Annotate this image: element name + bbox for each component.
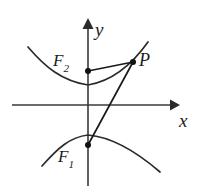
point-p-dot (130, 59, 136, 65)
point-focus1-dot (85, 142, 91, 148)
focus2-label: F2 (53, 52, 69, 73)
y-axis-arrow-icon (83, 18, 94, 29)
x-axis-arrow-icon (170, 100, 180, 111)
y-axis-label-text: y (95, 19, 103, 40)
focus1-label: F1 (58, 148, 74, 169)
segment-focus1-to-p (88, 62, 133, 145)
point-p-label-text: P (139, 50, 150, 70)
y-axis-label: y (95, 20, 103, 39)
focus2-label-text: F (53, 51, 63, 70)
x-axis-label-text: x (179, 110, 187, 131)
focus1-label-text: F (58, 147, 68, 166)
point-focus2-dot (85, 68, 91, 74)
hyperbola-figure: y x F2 F1 P (0, 0, 208, 186)
figure-canvas (0, 0, 208, 186)
focus1-label-subscript: 1 (68, 158, 74, 170)
point-p-label: P (139, 51, 150, 69)
focus2-label-subscript: 2 (63, 62, 69, 74)
x-axis-label: x (179, 111, 187, 130)
